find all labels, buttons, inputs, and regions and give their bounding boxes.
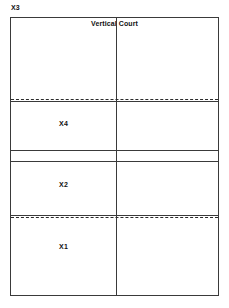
center-vertical-line xyxy=(116,18,117,295)
court-title: Vertical Court xyxy=(11,19,218,28)
mid-line-lower xyxy=(11,161,218,162)
serve-line-solid xyxy=(11,101,218,102)
zone-label-x2: X2 xyxy=(11,180,116,189)
back-line-solid xyxy=(11,215,218,216)
serve-line-dashed xyxy=(11,99,218,100)
mid-line-upper xyxy=(11,150,218,151)
zone-label-x4: X4 xyxy=(11,119,116,128)
court-outline: Vertical Court X4 X2 X1 xyxy=(10,17,219,296)
corner-label-x3: X3 xyxy=(11,3,20,12)
back-line-dashed xyxy=(11,217,218,218)
court-diagram-canvas: X3 Vertical Court X4 X2 X1 xyxy=(0,0,229,308)
zone-label-x1: X1 xyxy=(11,242,116,251)
